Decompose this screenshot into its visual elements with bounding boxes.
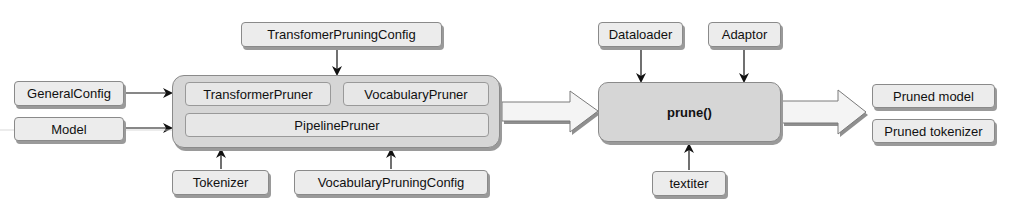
transformer-pruning-config-box: TransfomerPruningConfig <box>241 22 442 47</box>
block-arrow-pruner-to-prune <box>502 91 600 135</box>
pruned-tokenizer-box: Pruned tokenizer <box>872 119 995 143</box>
dataloader-box: Dataloader <box>598 22 683 47</box>
tokenizer-box: Tokenizer <box>172 170 269 195</box>
textiter-box: textiter <box>652 171 726 196</box>
general-config-box: GeneralConfig <box>14 81 124 106</box>
model-box: Model <box>14 117 124 141</box>
vocabulary-pruner-box: VocabularyPruner <box>343 82 489 106</box>
transformer-pruner-box: TransformerPruner <box>185 82 331 106</box>
pruned-model-box: Pruned model <box>872 84 995 108</box>
pipeline-pruner-box: PipelinePruner <box>185 113 489 137</box>
vocabulary-pruning-config-box: VocabularyPruningConfig <box>294 170 488 195</box>
pruner-container: TransformerPruner VocabularyPruner Pipel… <box>172 75 500 148</box>
connector-layer <box>0 0 1009 216</box>
prune-function-box: prune() <box>598 82 781 142</box>
adaptor-box: Adaptor <box>708 22 781 47</box>
block-arrow-prune-to-outputs <box>782 90 868 137</box>
